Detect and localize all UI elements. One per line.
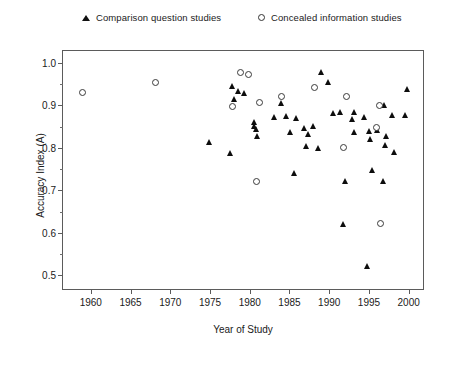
legend-label-comparison: Comparison question studies xyxy=(96,12,221,23)
y-axis-tick xyxy=(58,233,63,234)
circle-marker-icon xyxy=(258,14,265,21)
x-axis-tick-label: 1995 xyxy=(358,297,380,308)
data-point-concealed-information xyxy=(311,84,318,91)
data-point-comparison-question xyxy=(291,170,297,176)
data-point-comparison-question xyxy=(361,114,367,120)
data-point-concealed-information xyxy=(343,93,350,100)
data-point-comparison-question xyxy=(318,69,324,75)
legend-item-concealed-information-studies: Concealed information studies xyxy=(258,12,402,23)
data-point-concealed-information xyxy=(377,220,384,227)
data-point-concealed-information xyxy=(253,178,260,185)
data-point-comparison-question xyxy=(337,109,343,115)
data-point-comparison-question xyxy=(271,114,277,120)
y-axis-minor-tick xyxy=(60,254,63,255)
plot-frame: 0.50.60.70.80.91.01960196519701975198019… xyxy=(62,50,424,290)
data-point-concealed-information xyxy=(245,71,252,78)
data-point-comparison-question xyxy=(382,142,388,148)
x-axis-tick xyxy=(369,289,370,294)
data-point-concealed-information xyxy=(79,89,86,96)
data-point-comparison-question xyxy=(404,86,410,92)
x-axis-tick xyxy=(329,289,330,294)
data-point-comparison-question xyxy=(364,263,370,269)
data-point-concealed-information xyxy=(278,93,285,100)
data-point-comparison-question xyxy=(325,79,331,85)
x-axis-tick xyxy=(289,289,290,294)
y-axis-tick xyxy=(58,275,63,276)
data-point-comparison-question xyxy=(287,129,293,135)
data-point-comparison-question xyxy=(315,145,321,151)
data-point-comparison-question xyxy=(366,128,372,134)
triangle-marker-icon xyxy=(82,15,90,21)
data-point-comparison-question xyxy=(310,123,316,129)
y-axis-tick xyxy=(58,148,63,149)
data-point-comparison-question xyxy=(231,96,237,102)
legend-item-comparison-question-studies: Comparison question studies xyxy=(82,12,221,23)
y-axis-tick xyxy=(58,105,63,106)
x-axis-tick-label: 1965 xyxy=(119,297,141,308)
data-point-comparison-question xyxy=(235,88,241,94)
x-axis-tick xyxy=(210,289,211,294)
data-point-comparison-question xyxy=(293,115,299,121)
data-point-concealed-information xyxy=(373,124,380,131)
y-axis-minor-tick xyxy=(60,127,63,128)
scatter-chart-figure: Comparison question studies Concealed in… xyxy=(0,0,458,371)
data-point-concealed-information xyxy=(152,79,159,86)
data-point-comparison-question xyxy=(305,131,311,137)
data-point-concealed-information xyxy=(237,69,244,76)
data-point-comparison-question xyxy=(301,125,307,131)
data-point-comparison-question xyxy=(351,129,357,135)
data-point-comparison-question xyxy=(369,167,375,173)
x-axis-tick xyxy=(131,289,132,294)
x-axis-tick xyxy=(91,289,92,294)
data-point-concealed-information xyxy=(256,99,263,106)
y-axis-minor-tick xyxy=(60,212,63,213)
data-point-comparison-question xyxy=(278,100,284,106)
y-axis-minor-tick xyxy=(60,84,63,85)
data-point-comparison-question xyxy=(340,221,346,227)
chart-legend: Comparison question studies Concealed in… xyxy=(0,12,458,32)
data-point-concealed-information xyxy=(340,144,347,151)
x-axis-tick-label: 2000 xyxy=(398,297,420,308)
y-axis-title: Accuracy Index (A) xyxy=(35,76,46,276)
x-axis-tick-label: 1975 xyxy=(199,297,221,308)
data-point-comparison-question xyxy=(303,143,309,149)
x-axis-tick-label: 1960 xyxy=(80,297,102,308)
legend-label-concealed: Concealed information studies xyxy=(271,12,402,23)
y-axis-tick xyxy=(58,63,63,64)
data-point-comparison-question xyxy=(206,139,212,145)
y-axis-tick-label: 1.0 xyxy=(42,57,56,68)
x-axis-title: Year of Study xyxy=(62,324,424,335)
x-axis-tick xyxy=(409,289,410,294)
data-point-concealed-information xyxy=(229,103,236,110)
data-point-comparison-question xyxy=(391,149,397,155)
x-axis-tick xyxy=(250,289,251,294)
data-point-comparison-question xyxy=(241,90,247,96)
data-point-comparison-question xyxy=(367,136,373,142)
data-point-comparison-question xyxy=(389,112,395,118)
data-point-comparison-question xyxy=(283,113,289,119)
data-point-comparison-question xyxy=(253,126,259,132)
x-axis-tick-label: 1980 xyxy=(239,297,261,308)
plot-data-area xyxy=(63,51,423,289)
data-point-concealed-information xyxy=(376,102,383,109)
x-axis-tick-label: 1970 xyxy=(159,297,181,308)
x-axis-tick-label: 1990 xyxy=(318,297,340,308)
data-point-comparison-question xyxy=(254,133,260,139)
data-point-comparison-question xyxy=(349,116,355,122)
x-axis-tick-label: 1985 xyxy=(278,297,300,308)
data-point-comparison-question xyxy=(351,109,357,115)
y-axis-tick xyxy=(58,190,63,191)
data-point-comparison-question xyxy=(380,178,386,184)
x-axis-tick xyxy=(170,289,171,294)
data-point-comparison-question xyxy=(330,110,336,116)
y-axis-minor-tick xyxy=(60,169,63,170)
data-point-comparison-question xyxy=(342,178,348,184)
data-point-comparison-question xyxy=(227,150,233,156)
data-point-comparison-question xyxy=(402,112,408,118)
data-point-comparison-question xyxy=(383,133,389,139)
